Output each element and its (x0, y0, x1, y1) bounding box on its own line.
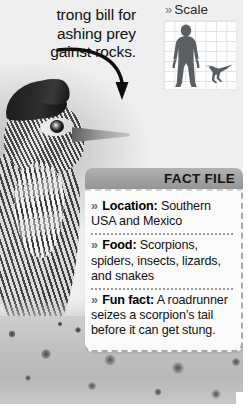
caption-line-1: trong bill for (0, 6, 136, 25)
page-root: trong bill for ashing prey gainst rocks.… (0, 0, 252, 408)
bird-bill (72, 126, 130, 143)
fact-file-entry-fun-fact: » Fun fact: A roadrunner seizes a scorpi… (91, 288, 233, 343)
fact-file-title: FACT FILE (164, 171, 235, 186)
scale-silhouettes (164, 21, 238, 91)
chevron-double-right-icon: » (91, 238, 98, 252)
scale-title: »Scale (165, 2, 239, 17)
bird-eye (50, 120, 64, 133)
page-corner-white (236, 392, 252, 408)
fact-file-entry-food: » Food: Scorpions, spiders, insects, liz… (91, 233, 233, 288)
chevron-double-right-icon: » (91, 293, 98, 307)
scale-title-label: Scale (174, 2, 208, 17)
page-margin-right (243, 0, 252, 408)
fact-file-label-location: Location: (102, 199, 157, 213)
caption-line-3: gainst rocks. (0, 43, 136, 62)
scale-grid (163, 20, 237, 90)
human-silhouette (173, 25, 200, 88)
fact-file-panel: FACT FILE » Location: Southern USA and M… (85, 168, 243, 352)
page-margin-bottom (0, 404, 252, 408)
caption-line-2: ashing prey (0, 25, 136, 44)
fact-file-label-fun-fact: Fun fact: (102, 293, 154, 307)
scale-panel: »Scale (163, 2, 239, 90)
chevron-double-right-icon: » (165, 2, 172, 17)
roadrunner-silhouette (205, 65, 232, 84)
fact-file-entry-location: » Location: Southern USA and Mexico (91, 196, 233, 233)
photo-caption: trong bill for ashing prey gainst rocks. (0, 6, 136, 62)
fact-file-body: » Location: Southern USA and Mexico » Fo… (85, 189, 243, 352)
fact-file-label-food: Food: (102, 238, 136, 252)
fact-file-header: FACT FILE (85, 168, 243, 189)
chevron-double-right-icon: » (91, 199, 98, 213)
